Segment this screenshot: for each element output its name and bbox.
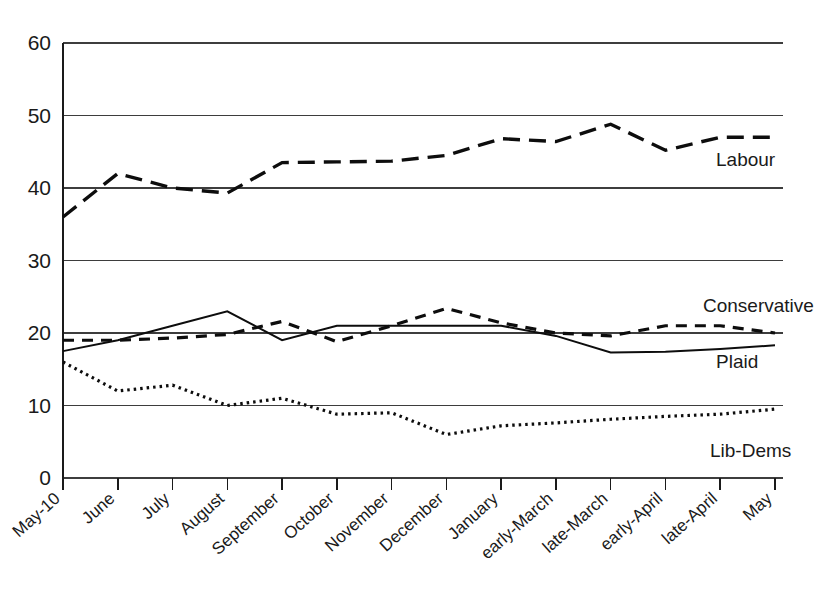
x-tick-labels-group: May-10JuneJulyAugustSeptemberOctoberNove… — [9, 489, 776, 564]
poll-trend-chart: 6050403020100 May-10JuneJulyAugustSeptem… — [0, 0, 819, 601]
y-tick-label: 30 — [28, 249, 51, 272]
series-label-labour: Labour — [716, 149, 776, 170]
y-tick-label: 0 — [39, 466, 51, 489]
series-label-conservative: Conservative — [703, 295, 814, 316]
y-tick-label: 50 — [28, 104, 51, 127]
x-tick-label: May — [739, 489, 776, 525]
y-tick-label: 40 — [28, 176, 51, 199]
series-label-plaid: Plaid — [716, 351, 758, 372]
x-tick-label: July — [138, 489, 174, 524]
y-tick-label: 10 — [28, 394, 51, 417]
y-tick-label: 60 — [28, 31, 51, 54]
series-line-labour — [63, 124, 775, 217]
series-label-lib-dems: Lib-Dems — [710, 440, 791, 461]
chart-canvas: 6050403020100 May-10JuneJulyAugustSeptem… — [0, 0, 819, 601]
x-tick-marks-group — [63, 478, 775, 490]
series-labels-group: LabourConservativePlaidLib-Dems — [703, 149, 814, 461]
y-tick-label: 20 — [28, 321, 51, 344]
x-tick-label: June — [78, 489, 118, 528]
series-line-lib-dems — [63, 362, 775, 435]
x-tick-label: August — [176, 489, 228, 539]
gridlines-group — [63, 43, 783, 478]
x-tick-label: May-10 — [9, 489, 64, 541]
x-tick-label: late-April — [658, 489, 721, 548]
y-tick-labels-group: 6050403020100 — [28, 31, 51, 489]
series-lines-group — [63, 124, 775, 434]
